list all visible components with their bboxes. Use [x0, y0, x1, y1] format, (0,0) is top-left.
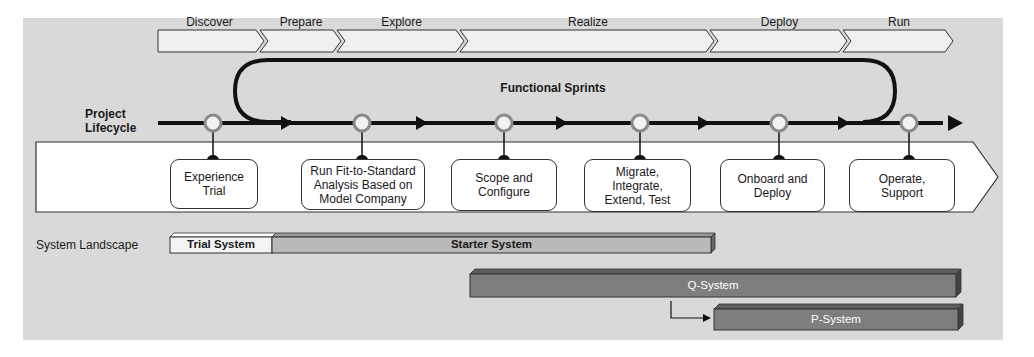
starter-system-label: Starter System [272, 238, 711, 250]
transport-arrow [671, 301, 703, 318]
task-experience-trial: ExperienceTrial [170, 159, 258, 209]
task-operate-support: Operate,Support [849, 159, 955, 212]
phase-chevron-realize [460, 30, 714, 52]
phase-realize: Realize [466, 14, 710, 30]
p-system-label: P-System [714, 313, 958, 325]
phase-chevron-deploy [710, 30, 847, 52]
functional-sprints-label: Functional Sprints [453, 81, 653, 95]
phase-chevron-explore [337, 30, 464, 52]
task-scope-configure: Scope andConfigure [451, 159, 557, 211]
task-fit-to-standard: Run Fit-to-StandardAnalysis Based onMode… [301, 159, 425, 210]
diagram-canvas: Discover Prepare Explore Realize Deploy … [23, 18, 1003, 340]
phase-explore: Explore [343, 14, 460, 30]
system-landscape-label: System Landscape [36, 238, 138, 252]
phase-prepare: Prepare [265, 14, 337, 30]
milestone-icon [354, 115, 370, 131]
milestone-icon [901, 115, 917, 131]
milestone-icon [496, 115, 512, 131]
q-system-label: Q-System [470, 279, 956, 291]
transport-arrowhead [703, 314, 711, 322]
milestone-icon [771, 115, 787, 131]
phase-chevrons [158, 30, 953, 52]
phase-chevron-run [843, 30, 953, 52]
task-onboard-deploy: Onboard andDeploy [720, 159, 825, 212]
phase-discover: Discover [158, 14, 261, 30]
trial-system-label: Trial System [170, 238, 272, 250]
phase-chevron-prepare [260, 30, 341, 52]
task-migrate-integrate: Migrate,Integrate,Extend, Test [584, 159, 691, 212]
milestone-icon [205, 115, 221, 131]
milestone-icon [632, 115, 648, 131]
phase-run: Run [849, 14, 949, 30]
phase-chevron-discover [158, 30, 264, 52]
project-lifecycle-label: Project Lifecycle [85, 107, 136, 135]
phase-deploy: Deploy [716, 14, 843, 30]
